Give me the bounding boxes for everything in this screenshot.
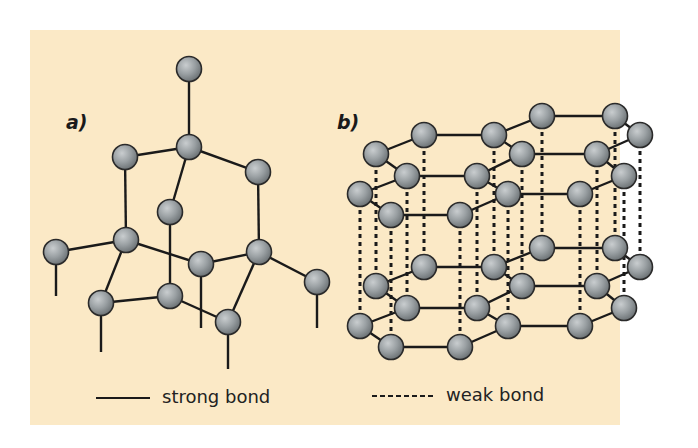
bond-stubs	[56, 265, 317, 369]
atom	[379, 203, 404, 228]
atom	[395, 164, 420, 189]
atom	[628, 255, 653, 280]
atom	[113, 145, 138, 170]
atom	[448, 335, 473, 360]
atom	[364, 274, 389, 299]
atom	[568, 182, 593, 207]
atom	[603, 236, 628, 261]
atom	[496, 182, 521, 207]
atom	[305, 270, 330, 295]
atom	[44, 240, 69, 265]
atom	[530, 236, 555, 261]
atom	[348, 182, 373, 207]
atom	[348, 314, 373, 339]
atom	[395, 296, 420, 321]
atom	[628, 123, 653, 148]
diagram-canvas	[0, 0, 698, 448]
atom	[247, 240, 272, 265]
atom	[364, 142, 389, 167]
atom	[510, 142, 535, 167]
atom	[585, 142, 610, 167]
atom	[465, 164, 490, 189]
atom	[496, 314, 521, 339]
atom	[177, 57, 202, 82]
atom	[603, 104, 628, 129]
atom	[216, 310, 241, 335]
atom	[412, 123, 437, 148]
atom	[465, 296, 490, 321]
atom	[585, 274, 610, 299]
atom	[177, 135, 202, 160]
atom	[89, 291, 114, 316]
atom	[246, 160, 271, 185]
atom	[612, 164, 637, 189]
atom	[530, 104, 555, 129]
panel-a-label: a)	[66, 111, 88, 133]
atom	[482, 255, 507, 280]
atom	[568, 314, 593, 339]
panel-b-label: b)	[337, 111, 359, 133]
atom	[158, 284, 183, 309]
atom	[189, 252, 214, 277]
atom	[158, 200, 183, 225]
atoms	[44, 57, 653, 360]
legend-strong-bond-label: strong bond	[162, 386, 270, 407]
atom	[412, 255, 437, 280]
atom	[612, 296, 637, 321]
atom	[114, 228, 139, 253]
atom	[482, 123, 507, 148]
atom	[379, 335, 404, 360]
atom	[448, 203, 473, 228]
legend-weak-bond-label: weak bond	[446, 384, 544, 405]
atom	[510, 274, 535, 299]
